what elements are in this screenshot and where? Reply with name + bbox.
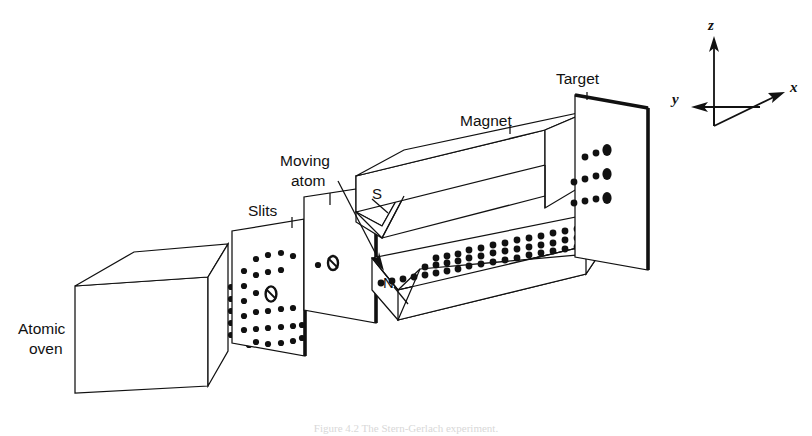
- atomic-oven: [75, 244, 228, 393]
- label-moving-atom-line1: Moving: [280, 152, 330, 169]
- coordinate-axes: z x y: [670, 17, 798, 126]
- label-pole-north: N: [383, 274, 394, 291]
- figure-caption: Figure 4.2 The Stern-Gerlach experiment.: [0, 418, 812, 436]
- label-slits: Slits: [248, 202, 278, 219]
- axis-label-z: z: [707, 17, 714, 33]
- label-atomic-oven-line2: oven: [29, 340, 63, 357]
- axis-z: z: [707, 17, 719, 126]
- magnet-south-pole: [356, 110, 592, 238]
- target-plate: [571, 95, 648, 270]
- first-slit-plate: [232, 219, 305, 356]
- label-magnet: Magnet: [460, 112, 512, 129]
- stern-gerlach-figure: z x y: [0, 0, 812, 436]
- label-atomic-oven-line1: Atomic: [18, 320, 66, 337]
- axis-label-x: x: [789, 79, 798, 95]
- figure-caption-text: Figure 4.2 The Stern-Gerlach experiment.: [314, 422, 498, 434]
- axis-x: x: [714, 79, 798, 126]
- axis-y: y: [670, 91, 760, 126]
- label-target: Target: [556, 70, 600, 87]
- label-moving-atom-line2: atom: [291, 172, 325, 189]
- diagram-canvas: z x y: [0, 0, 812, 436]
- axis-label-y: y: [670, 91, 679, 107]
- label-pole-south: S: [372, 185, 382, 202]
